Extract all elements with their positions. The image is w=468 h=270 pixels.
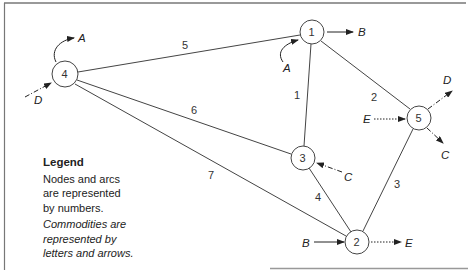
arc-label-4: 4 [315, 191, 321, 203]
commodity-arrow-a-node4 [54, 38, 74, 62]
arc-2 [321, 41, 410, 109]
commodity-label-a-node1: A [282, 62, 291, 74]
arc-label-5: 5 [182, 39, 188, 51]
svg-text:1: 1 [309, 26, 315, 38]
commodity-arrow-c-node3 [317, 163, 342, 172]
commodity-label-a-node4: A [77, 32, 86, 44]
svg-text:5: 5 [416, 112, 422, 124]
commodity-arrow-c-node5 [427, 128, 443, 143]
legend-commodities-text: Commodities are represented by letters a… [43, 217, 153, 261]
arc-3 [363, 129, 413, 231]
svg-text:4: 4 [62, 68, 68, 80]
legend-line-5: represented by [43, 232, 153, 247]
legend-line-1: Nodes and arcs [43, 172, 153, 187]
commodity-arrow-d-node5 [428, 91, 452, 109]
commodity-label-e-node5: E [363, 113, 371, 125]
commodity-label-e-node2: E [405, 237, 413, 249]
commodity-label-b-node1: B [358, 26, 366, 38]
node-1: 1 [300, 20, 324, 44]
commodity-label-d-node5: D [443, 74, 451, 86]
commodity-label-d-node4: D [34, 94, 42, 106]
node-3: 3 [291, 146, 315, 170]
svg-text:3: 3 [300, 152, 306, 164]
arc-label-6: 6 [191, 104, 197, 116]
legend-line-3: by numbers. [43, 201, 153, 216]
legend-line-6: letters and arrows. [43, 246, 153, 261]
arc-label-3: 3 [394, 178, 400, 190]
legend-line-2: are represented [43, 186, 153, 201]
arc-label-7: 7 [208, 169, 214, 181]
commodity-label-c-node5: C [441, 149, 450, 161]
arc-label-1: 1 [294, 89, 300, 101]
network-diagram: 5 6 7 1 2 3 4 4 1 5 3 2 [0, 0, 468, 270]
arc-label-2: 2 [371, 91, 377, 103]
legend: Legend Nodes and arcs are represented by… [43, 155, 153, 261]
node-5: 5 [407, 106, 431, 130]
node-2: 2 [345, 230, 369, 254]
arc-1 [304, 44, 311, 146]
arc-6 [77, 80, 291, 154]
commodity-label-b-node2: B [302, 237, 310, 249]
arc-5 [78, 35, 300, 72]
legend-title: Legend [43, 155, 153, 170]
commodity-label-c-node3: C [344, 171, 353, 183]
legend-line-4: Commodities are [43, 217, 153, 232]
svg-text:2: 2 [354, 236, 360, 248]
legend-nodes-arcs-text: Nodes and arcs are represented by number… [43, 172, 153, 216]
commodity-arrow-a-node1 [280, 40, 298, 62]
node-4: 4 [52, 61, 78, 87]
